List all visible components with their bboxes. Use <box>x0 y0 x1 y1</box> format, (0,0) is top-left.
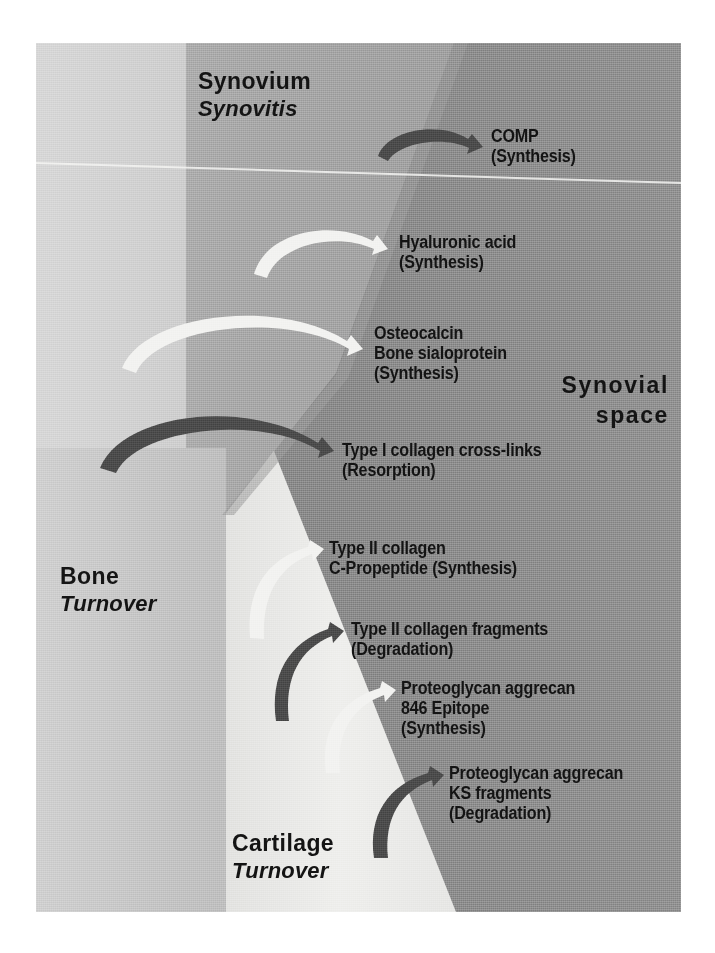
marker-type-ii-c-propeptide-line1: Type II collagen <box>329 539 446 558</box>
marker-hyaluronic-acid-line1: Hyaluronic acid <box>399 233 516 252</box>
tissue-subtitle-bone: Turnover <box>60 592 157 615</box>
tissue-title-synovium: Synovium <box>198 69 311 93</box>
marker-aggrecan-ks-line3: (Degradation) <box>449 804 551 823</box>
compartment-label-line1: Synovial <box>434 373 669 397</box>
tissue-subtitle-synovium: Synovitis <box>198 97 298 120</box>
marker-type-i-collagen-line1: Type I collagen cross-links <box>342 441 542 460</box>
figure-canvas: Synovium Synovitis COMP (Synthesis) Hyal… <box>0 0 715 953</box>
marker-osteocalcin-line2: Bone sialoprotein <box>374 344 507 363</box>
marker-type-ii-fragments-line1: Type II collagen fragments <box>351 620 548 639</box>
marker-osteocalcin-line1: Osteocalcin <box>374 324 463 343</box>
region-left-margin-upper <box>36 43 186 513</box>
tissue-title-cartilage: Cartilage <box>232 831 334 855</box>
marker-type-ii-c-propeptide-line2: C-Propeptide (Synthesis) <box>329 559 517 578</box>
marker-aggrecan-ks-line1: Proteoglycan aggrecan <box>449 764 623 783</box>
diagram-plate: Synovium Synovitis COMP (Synthesis) Hyal… <box>36 43 681 912</box>
region-bone <box>36 448 226 912</box>
marker-aggrecan-846-line2: 846 Epitope <box>401 699 489 718</box>
marker-aggrecan-846-line3: (Synthesis) <box>401 719 486 738</box>
marker-type-ii-fragments-line2: (Degradation) <box>351 640 453 659</box>
tissue-subtitle-cartilage: Turnover <box>232 859 329 882</box>
marker-type-i-collagen-line2: (Resorption) <box>342 461 435 480</box>
tissue-title-bone: Bone <box>60 564 119 588</box>
marker-hyaluronic-acid-line2: (Synthesis) <box>399 253 484 272</box>
compartment-label-line2: space <box>434 403 669 427</box>
marker-aggrecan-846-line1: Proteoglycan aggrecan <box>401 679 575 698</box>
marker-comp-line2: (Synthesis) <box>491 147 576 166</box>
marker-comp-line1: COMP <box>491 127 539 146</box>
marker-aggrecan-ks-line2: KS fragments <box>449 784 551 803</box>
